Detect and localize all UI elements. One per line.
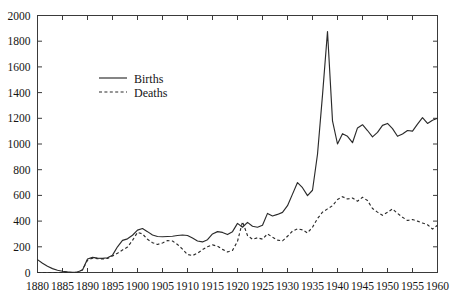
x-tick-label: 1950	[376, 280, 399, 292]
x-tick-label: 1900	[126, 280, 149, 292]
chart-legend: Births Deaths	[99, 72, 168, 100]
series-line-deaths	[38, 197, 438, 273]
y-tick-label: 1800	[8, 35, 31, 47]
x-tick-label: 1895	[101, 280, 124, 292]
y-tick-label: 1600	[8, 61, 31, 73]
x-tick-label: 1925	[251, 280, 274, 292]
x-axis-tick-labels: 1880188518901895190019051910191519201925…	[26, 280, 449, 292]
x-tick-label: 1940	[326, 280, 349, 292]
x-tick-label: 1880	[26, 280, 49, 292]
x-tick-label: 1960	[426, 280, 449, 292]
legend-label-deaths: Deaths	[134, 86, 168, 100]
plot-frame	[38, 16, 438, 273]
y-tick-label: 800	[13, 164, 31, 176]
x-tick-label: 1955	[401, 280, 424, 292]
legend-label-births: Births	[134, 72, 164, 86]
y-tick-label: 1000	[8, 138, 31, 150]
x-tick-label: 1910	[176, 280, 199, 292]
y-axis-tick-labels: 0200400600800100012001400160018002000	[8, 10, 31, 279]
y-tick-label: 1200	[8, 112, 31, 124]
y-tick-label: 2000	[8, 10, 31, 22]
series-line-births	[38, 32, 438, 273]
x-tick-label: 1920	[226, 280, 249, 292]
y-tick-label: 600	[13, 189, 31, 201]
x-tick-label: 1930	[276, 280, 299, 292]
x-tick-label: 1905	[151, 280, 174, 292]
x-tick-label: 1935	[301, 280, 324, 292]
x-tick-label: 1945	[351, 280, 374, 292]
x-tick-label: 1890	[76, 280, 99, 292]
chart-figure: 0200400600800100012001400160018002000 18…	[0, 0, 452, 296]
x-tick-label: 1885	[51, 280, 74, 292]
births-deaths-line-chart: 0200400600800100012001400160018002000 18…	[0, 0, 452, 296]
x-tick-label: 1915	[201, 280, 224, 292]
y-tick-label: 1400	[8, 87, 31, 99]
y-tick-label: 400	[13, 215, 31, 227]
y-tick-label: 200	[13, 241, 31, 253]
axis-tick-marks	[38, 16, 438, 273]
y-tick-label: 0	[25, 267, 31, 279]
